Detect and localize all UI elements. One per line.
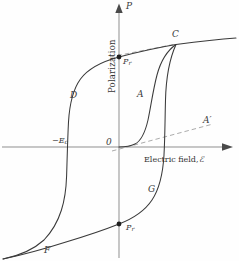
- point-label-C: C: [172, 30, 179, 39]
- remanent-positive-dot: [117, 55, 122, 60]
- remanent-positive-label: Pr: [123, 58, 131, 66]
- x-axis-field-symbol: ℰ: [199, 155, 204, 164]
- x-axis: [2, 143, 233, 151]
- y-axis-tip-symbol: P: [126, 2, 132, 11]
- neg-coercive-field-label: −Ec: [52, 137, 68, 145]
- hysteresis-plot: [0, 0, 239, 261]
- remanent-negative-dot: [117, 222, 122, 227]
- point-label-D: D: [70, 91, 77, 100]
- x-axis-label-group: Electric field,ℰ: [144, 156, 204, 164]
- y-axis-label: Polarization: [107, 39, 117, 93]
- point-label-A: A: [137, 90, 144, 99]
- x-axis-label-text: Electric field,: [144, 155, 199, 164]
- point-label-F: F: [44, 246, 50, 255]
- origin-label: 0: [106, 138, 112, 147]
- remanent-positive-subscript: r: [128, 59, 131, 66]
- remanent-negative-label: Pr: [126, 224, 134, 232]
- point-label-A-prime: A′: [203, 116, 212, 125]
- ascending-branch: [3, 45, 176, 260]
- remanent-negative-subscript: r: [131, 225, 134, 232]
- point-label-G: G: [148, 185, 155, 194]
- neg-coercive-field-subscript: c: [65, 138, 68, 145]
- neg-coercive-field-text: −E: [52, 136, 65, 145]
- hysteresis-figure: Polarization P Electric field,ℰ 0 −Ec Pr…: [0, 0, 239, 261]
